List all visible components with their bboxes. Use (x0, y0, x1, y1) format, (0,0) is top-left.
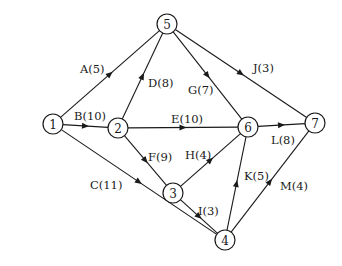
edge-label-b: B(10) (74, 109, 106, 123)
edge-label-k: K(5) (244, 169, 269, 183)
edge-labels-layer: A(5)B(10)C(11)D(8)E(10)F(9)G(7)H(4)I(3)J… (74, 61, 308, 218)
node-label: 4 (221, 234, 229, 248)
edge-label-e: E(10) (171, 112, 203, 126)
edge-label-i: I(3) (198, 204, 219, 218)
arrowhead-icon (134, 178, 142, 184)
node-label: 2 (114, 122, 122, 136)
edge-label-d: D(8) (148, 76, 174, 90)
arrowhead-icon (233, 180, 239, 187)
edge-label-j: J(3) (252, 61, 274, 75)
node-3: 3 (163, 183, 183, 203)
network-diagram: A(5)B(10)C(11)D(8)E(10)F(9)G(7)H(4)I(3)J… (0, 0, 342, 266)
edge-label-a: A(5) (79, 62, 105, 76)
node-1: 1 (43, 114, 63, 134)
edge-c (61, 130, 216, 235)
arrowhead-icon (203, 71, 210, 78)
edge-l (258, 122, 305, 128)
node-label: 1 (49, 118, 57, 132)
node-label: 7 (311, 117, 319, 131)
edge-a (61, 31, 160, 118)
edge-label-f: F(9) (148, 150, 172, 164)
node-4: 4 (215, 230, 235, 250)
edge-b (63, 123, 108, 129)
node-label: 5 (163, 18, 171, 32)
edge-label-c: C(11) (90, 178, 122, 192)
edge-j (175, 30, 306, 118)
arrowhead-icon (82, 123, 89, 129)
arrowhead-icon (236, 69, 244, 75)
node-label: 6 (244, 121, 252, 135)
edge-label-g: G(7) (188, 83, 213, 97)
edge-label-m: M(4) (280, 179, 308, 193)
network-diagram-canvas: A(5)B(10)C(11)D(8)E(10)F(9)G(7)H(4)I(3)J… (0, 0, 342, 266)
node-label: 3 (169, 187, 177, 201)
arrowhead-icon (278, 122, 285, 128)
node-7: 7 (305, 113, 325, 133)
nodes-layer: 1234567 (43, 14, 325, 250)
edge-label-l: L(8) (271, 133, 295, 147)
node-5: 5 (157, 14, 177, 34)
edge-label-h: H(4) (185, 148, 211, 162)
edge-g (173, 32, 242, 119)
node-6: 6 (238, 117, 258, 137)
node-2: 2 (108, 118, 128, 138)
